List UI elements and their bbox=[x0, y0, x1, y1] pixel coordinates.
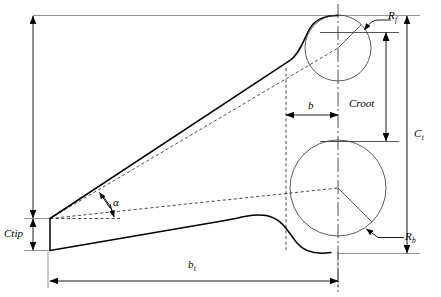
leading-edge-curve bbox=[50, 16, 338, 219]
diagram-canvas bbox=[0, 0, 441, 297]
rf-radius-spoke bbox=[338, 25, 362, 49]
dimension-arrow-alpha-upper bbox=[100, 193, 111, 209]
label-r-fillet: Rf bbox=[388, 10, 397, 21]
label-alpha: α bbox=[113, 197, 119, 208]
dimension-lines bbox=[33, 16, 407, 281]
dashed-chord-trailing bbox=[50, 188, 338, 219]
label-c-root: Croot bbox=[349, 98, 374, 109]
blade-geometry-diagram: Rf Rb Croot Ct Ctip bt b α bbox=[0, 0, 441, 297]
rb-leader-arrow bbox=[367, 229, 379, 238]
label-r-back: Rb bbox=[405, 231, 415, 242]
label-b-t: bt bbox=[188, 259, 196, 270]
construction-lines bbox=[50, 48, 338, 250]
dashed-chord-leading bbox=[50, 48, 338, 219]
blade-outline bbox=[50, 16, 338, 254]
rf-leader-arrow bbox=[365, 20, 379, 30]
extension-lines bbox=[24, 16, 420, 289]
label-b: b bbox=[308, 100, 314, 111]
label-c-t: Ct bbox=[414, 128, 423, 139]
label-c-tip: Ctip bbox=[4, 228, 23, 239]
trailing-edge-curve bbox=[50, 215, 331, 253]
rb-radius-spoke bbox=[338, 188, 372, 222]
